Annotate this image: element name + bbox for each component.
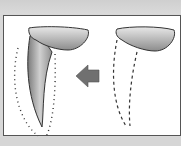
diagram-canvas (0, 0, 181, 146)
left-arrow-icon (76, 65, 99, 87)
dashed-root-outline-icon (114, 40, 137, 126)
right-tooth-crown-icon (116, 27, 175, 51)
